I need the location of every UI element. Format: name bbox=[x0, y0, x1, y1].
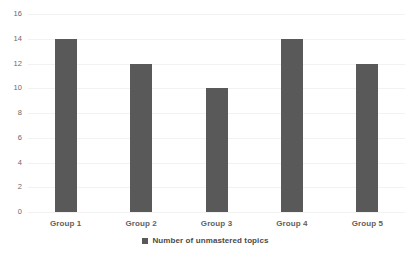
bar[interactable] bbox=[130, 64, 152, 213]
bar-slot bbox=[179, 14, 254, 212]
bar[interactable] bbox=[281, 39, 303, 212]
y-axis: 16 14 12 10 8 6 4 2 0 bbox=[0, 14, 26, 212]
bar-slot bbox=[28, 14, 103, 212]
y-axis-tick: 12 bbox=[13, 60, 22, 68]
x-axis-label: Group 4 bbox=[254, 216, 329, 232]
y-axis-tick: 4 bbox=[18, 159, 22, 167]
legend-square-marker-icon bbox=[142, 238, 148, 244]
chart-legend: Number of unmastered topics bbox=[0, 233, 411, 249]
x-axis: Group 1 Group 2 Group 3 Group 4 Group 5 bbox=[28, 216, 405, 232]
bar-series bbox=[28, 14, 405, 212]
x-axis-label: Group 1 bbox=[28, 216, 103, 232]
bar-slot bbox=[254, 14, 329, 212]
x-axis-label: Group 3 bbox=[179, 216, 254, 232]
y-axis-tick: 0 bbox=[18, 208, 22, 216]
y-axis-tick: 6 bbox=[18, 134, 22, 142]
legend-entry-label[interactable]: Number of unmastered topics bbox=[152, 237, 268, 245]
y-axis-tick: 14 bbox=[13, 35, 22, 43]
y-axis-tick: 10 bbox=[13, 85, 22, 93]
y-axis-tick: 8 bbox=[18, 109, 22, 117]
x-axis-label: Group 5 bbox=[330, 216, 405, 232]
bar-slot bbox=[103, 14, 178, 212]
y-axis-tick: 2 bbox=[18, 184, 22, 192]
bar-chart: 16 14 12 10 8 6 4 2 0 bbox=[0, 0, 411, 258]
y-axis-tick: 16 bbox=[13, 10, 22, 18]
plot-area bbox=[28, 14, 405, 212]
gridline bbox=[28, 212, 405, 213]
bar[interactable] bbox=[356, 64, 378, 213]
bar-slot bbox=[330, 14, 405, 212]
bar[interactable] bbox=[206, 88, 228, 212]
bar[interactable] bbox=[55, 39, 77, 212]
x-axis-label: Group 2 bbox=[103, 216, 178, 232]
